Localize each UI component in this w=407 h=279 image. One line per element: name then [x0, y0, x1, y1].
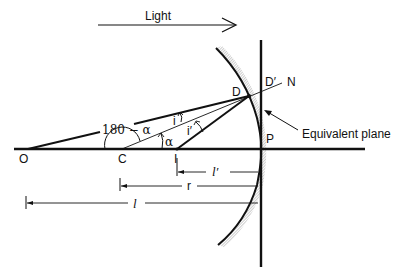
label-I: I — [174, 152, 177, 166]
label-i-prime: i′ — [187, 124, 193, 138]
incident-ray — [28, 132, 100, 149]
label-P: P — [266, 132, 274, 146]
point-I-marker — [175, 147, 178, 150]
light-label: Light — [145, 9, 172, 23]
label-alpha: α — [165, 135, 173, 149]
label-l-prime: l′ — [212, 164, 219, 179]
label-O: O — [19, 152, 28, 166]
point-D-marker — [247, 94, 251, 98]
dimension-l — [26, 196, 258, 209]
label-D-prime: D′ — [265, 75, 277, 89]
equivalent-plane-pointer — [266, 111, 298, 130]
label-C: C — [118, 152, 127, 166]
concave-mirror — [216, 48, 261, 245]
label-N: N — [287, 75, 296, 89]
mirror-hatching — [216, 46, 266, 247]
label-equivalent-plane: Equivalent plane — [302, 127, 391, 141]
angle-i-prime-arc — [196, 122, 203, 132]
label-l: l — [133, 196, 137, 211]
label-180-minus-alpha: 180 − α — [102, 123, 151, 137]
label-D: D — [232, 85, 241, 99]
incident-ray-upper — [134, 96, 249, 124]
label-i: i — [173, 114, 176, 128]
label-r: r — [187, 179, 191, 193]
optics-diagram: Light O C I — [0, 0, 407, 279]
angle-i-arc — [180, 113, 182, 122]
